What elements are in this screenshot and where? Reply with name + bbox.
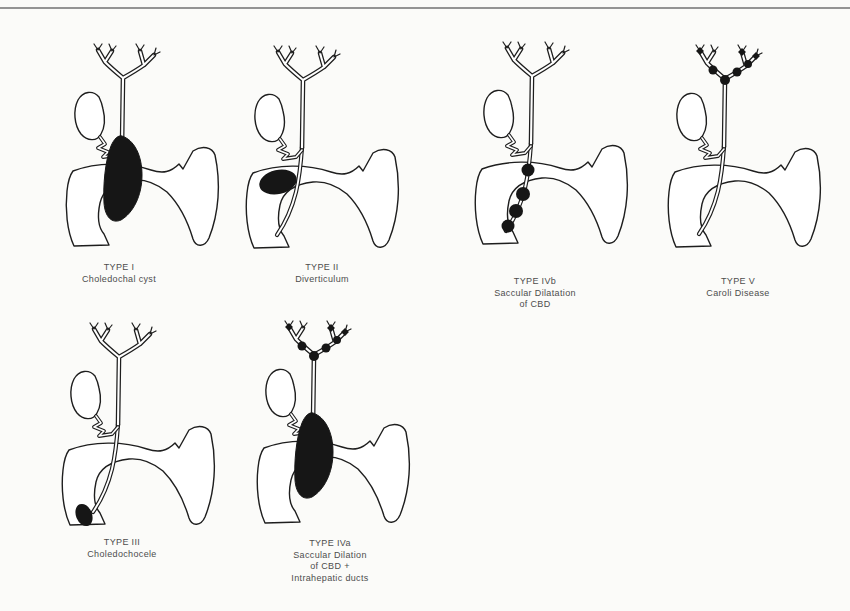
diagram-type-iva xyxy=(250,310,430,540)
panel-type-ii xyxy=(239,35,419,265)
caption-line: TYPE IVb xyxy=(494,276,576,288)
biliary-tree-shape xyxy=(90,323,156,425)
caption-line: TYPE I xyxy=(82,262,156,274)
caption-type-i: TYPE I Choledochal cyst xyxy=(82,262,156,285)
diagram-type-i xyxy=(59,33,239,263)
choledochal-cyst-shape xyxy=(295,413,333,498)
diagram-type-v xyxy=(661,34,841,264)
caption-line: Caroli Disease xyxy=(706,288,769,300)
caption-line: of CBD xyxy=(494,299,576,311)
caption-line: Choledochal cyst xyxy=(82,274,156,286)
biliary-tree-shape xyxy=(503,42,569,144)
biliary-tree-shape xyxy=(94,44,160,146)
top-rule xyxy=(0,7,850,9)
gallbladder-shape xyxy=(255,94,302,159)
panel-type-iii xyxy=(55,312,235,542)
intrahepatic-beads-shape xyxy=(696,47,760,85)
caption-type-v: TYPE V Caroli Disease xyxy=(706,276,769,299)
diagram-type-iii xyxy=(55,312,235,542)
panel-type-i xyxy=(59,33,239,263)
caption-line: TYPE IVa xyxy=(291,538,368,550)
caption-type-ivb: TYPE IVb Saccular Dilatation of CBD xyxy=(494,276,576,311)
duodenum-shape xyxy=(257,425,409,523)
choledochal-cyst-shape xyxy=(104,136,142,221)
caption-type-iva: TYPE IVa Saccular Dilation of CBD + Intr… xyxy=(291,538,368,584)
caption-type-iii: TYPE III Choledochocele xyxy=(87,537,156,560)
duodenum-shape xyxy=(475,146,627,244)
panel-type-iva xyxy=(250,310,430,540)
intrahepatic-beads-shape xyxy=(285,323,349,361)
caption-line: of CBD + xyxy=(291,561,368,573)
caption-line: Intrahepatic ducts xyxy=(291,573,368,585)
biliary-tree-shape xyxy=(285,321,351,423)
caption-line: Saccular Dilatation xyxy=(494,288,576,300)
figure-sheet: TYPE I Choledochal cyst TYPE II Divertic… xyxy=(0,0,850,611)
caption-type-ii: TYPE II Diverticulum xyxy=(295,262,349,285)
panel-type-v xyxy=(661,34,841,264)
gallbladder-shape xyxy=(677,93,724,158)
duodenum-shape xyxy=(66,148,218,246)
duodenum-shape xyxy=(246,150,398,248)
caption-line: TYPE III xyxy=(87,537,156,549)
caption-line: TYPE V xyxy=(706,276,769,288)
biliary-tree-shape xyxy=(274,46,340,148)
gallbladder-shape xyxy=(71,371,118,436)
diagram-type-ii xyxy=(239,35,419,265)
biliary-tree-shape xyxy=(696,45,762,147)
caption-line: Diverticulum xyxy=(295,274,349,286)
diagram-type-ivb xyxy=(468,31,648,261)
caption-line: Choledochocele xyxy=(87,549,156,561)
gallbladder-shape xyxy=(484,90,531,155)
caption-line: TYPE II xyxy=(295,262,349,274)
panel-type-ivb xyxy=(468,31,648,261)
duodenum-shape xyxy=(668,149,820,247)
caption-line: Saccular Dilation xyxy=(291,550,368,562)
